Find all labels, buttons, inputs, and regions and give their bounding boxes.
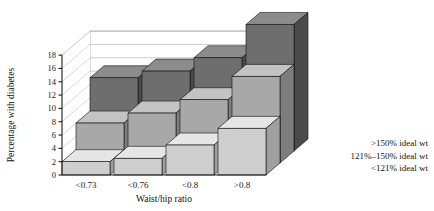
value-axis-tick-label: 6 — [52, 130, 56, 140]
category-tick-label: <0.73 — [76, 180, 97, 190]
bar-front-face — [166, 145, 214, 175]
value-axis-tick-label: 18 — [48, 50, 57, 60]
y-axis-title: Percentage with diabetes — [6, 68, 16, 163]
x-axis-title: Waist/hip ratio — [136, 194, 192, 204]
bar-chart-3d: 024681012141618<0.73<0.76<0.8>0.8Waist/h… — [0, 0, 434, 211]
value-axis-tick-label: 0 — [52, 170, 56, 180]
category-axis: <0.73<0.76<0.8>0.8Waist/hip ratio — [62, 175, 266, 204]
chart-figure: 024681012141618<0.73<0.76<0.8>0.8Waist/h… — [0, 0, 434, 211]
category-tick-label: <0.8 — [182, 180, 199, 190]
value-axis-tick-label: 8 — [52, 117, 56, 127]
category-tick-label: >0.8 — [234, 180, 251, 190]
bar — [218, 116, 280, 175]
value-axis-tick-label: 14 — [48, 77, 57, 87]
value-axis-tick-label: 16 — [48, 63, 57, 73]
bar-front-face — [114, 158, 162, 175]
legend-item-label: <121% ideal wt — [371, 163, 429, 173]
bar-side-face — [280, 64, 294, 163]
category-tick-label: <0.76 — [128, 180, 149, 190]
value-axis-tick-label: 10 — [48, 103, 57, 113]
bar-front-face — [62, 162, 110, 175]
legend-item-label: >150% ideal wt — [371, 138, 429, 148]
bar-front-face — [218, 128, 266, 175]
legend: >150% ideal wt121%–150% ideal wt<121% id… — [351, 138, 429, 173]
value-axis-tick-label: 12 — [48, 90, 57, 100]
value-axis-tick-label: 2 — [52, 157, 56, 167]
legend-item-label: 121%–150% ideal wt — [351, 151, 429, 161]
value-axis-tick-label: 4 — [52, 143, 57, 153]
value-axis: 024681012141618 — [48, 50, 63, 180]
bar-side-face — [294, 12, 308, 151]
